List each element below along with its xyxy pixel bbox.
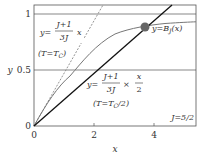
brillouin-chart: 0 2 4 0 0.5 1 x y y= J+1 3J x (T=TC) y= … (0, 0, 200, 156)
tick-x-2: 2 (91, 130, 97, 140)
tick-x-4: 4 (151, 130, 157, 140)
x-axis-label: x (112, 144, 117, 154)
eq1-numerator: J+1 (55, 20, 72, 29)
eq1-condition: (T=TC) (38, 49, 66, 59)
tick-y-05: 0.5 (17, 65, 32, 75)
eq2-times: × (123, 80, 130, 89)
j-value-label: J=5/2 (169, 113, 194, 122)
equation-half-tc: y= J+1 3J × x 2 (T=TC/2) (86, 72, 143, 109)
eq2-denominator2: 2 (136, 85, 141, 94)
eq1-lhs: y= (39, 28, 51, 37)
tick-y-0: 0 (25, 121, 31, 131)
eq2-numerator: J+1 (102, 72, 119, 81)
tick-x-0: 0 (31, 130, 37, 140)
eq2-condition: (T=TC/2) (93, 99, 129, 109)
eq2-denominator: 3J (107, 85, 116, 94)
brillouin-curve-label: y=BJ(x) (151, 24, 182, 35)
eq2-lhs: y= (86, 80, 98, 89)
eq1-variable: x (77, 28, 82, 37)
eq2-numerator2: x (137, 72, 142, 81)
tick-y-1: 1 (25, 9, 31, 19)
y-axis-label: y (6, 65, 13, 75)
equation-tc: y= J+1 3J x (T=TC) (38, 15, 84, 59)
eq1-denominator: 3J (60, 33, 69, 42)
intersection-marker (141, 23, 150, 32)
